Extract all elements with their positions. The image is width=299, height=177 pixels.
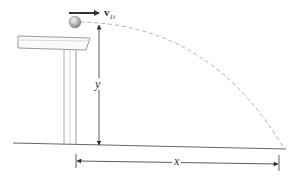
table-top: [18, 36, 90, 50]
range-label: x: [172, 155, 181, 167]
velocity-label: v1i: [104, 7, 115, 21]
ball: [69, 16, 81, 28]
trajectory-path: [80, 22, 283, 147]
velocity-subscript: 1i: [110, 13, 115, 21]
table-leg: [64, 50, 76, 144]
height-label: y: [93, 78, 102, 90]
projectile-diagram: [0, 0, 299, 177]
ground-line: [13, 143, 286, 149]
